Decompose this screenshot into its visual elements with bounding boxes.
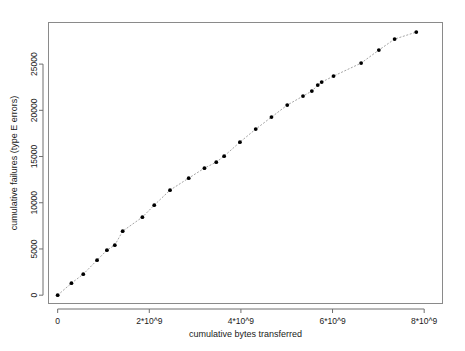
data-point [105,248,109,252]
data-point [203,166,207,170]
data-point [359,61,363,65]
x-tick-label: 2*10^9 [136,316,162,326]
data-point [113,243,117,247]
y-axis-title: cumulative failures (type E errors) [9,96,19,231]
data-point [332,74,336,78]
data-point [95,258,99,262]
data-point [56,293,60,297]
data-point [310,89,314,93]
x-tick-label: 0 [55,316,60,326]
chart-figure: 02*10^94*10^96*10^98*10^9 05000100001500… [0,0,465,351]
data-point [414,30,418,34]
chart-background [0,0,465,351]
data-point [121,229,125,233]
data-point [238,140,242,144]
data-point [393,37,397,41]
y-tick-label: 15000 [29,144,39,168]
data-point [152,203,156,207]
y-tick-label: 25000 [29,52,39,76]
y-tick-label: 5000 [29,239,39,258]
x-tick-label: 8*10^9 [411,316,437,326]
data-point [301,94,305,98]
data-point [316,83,320,87]
x-tick-label: 4*10^9 [228,316,254,326]
data-point [70,281,74,285]
x-tick-label: 6*10^9 [319,316,345,326]
y-tick-label: 20000 [29,98,39,122]
data-point [168,188,172,192]
data-point [270,115,274,119]
data-point [214,160,218,164]
data-point [222,154,226,158]
data-point [81,272,85,276]
data-point [254,127,258,131]
y-tick-label: 0 [29,293,39,298]
data-point [320,80,324,84]
data-point [377,48,381,52]
data-point [140,215,144,219]
data-point [285,103,289,107]
cumulative-failures-chart: 02*10^94*10^96*10^98*10^9 05000100001500… [0,0,465,351]
y-tick-label: 10000 [29,191,39,215]
x-axis-title: cumulative bytes transferred [189,329,302,339]
data-point [187,176,191,180]
